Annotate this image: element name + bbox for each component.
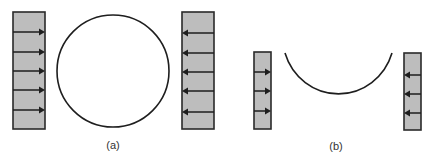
figure-canvas: (a) — [0, 0, 430, 162]
plate-rect — [404, 53, 421, 130]
right-plate-b — [404, 53, 421, 130]
right-plate-a — [182, 12, 214, 129]
open-arc — [285, 53, 392, 94]
full-circle — [57, 15, 169, 127]
left-plate-a — [13, 12, 45, 129]
left-plate-b — [254, 52, 271, 129]
panel-label-b: (b) — [329, 140, 342, 152]
panel-label-a: (a) — [106, 139, 119, 151]
panel-a: (a) — [13, 12, 214, 151]
panel-b: (b) — [254, 52, 421, 152]
